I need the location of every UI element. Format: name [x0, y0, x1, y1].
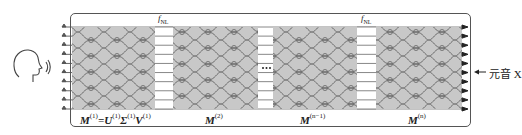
- mesh-block-3: [273, 27, 357, 109]
- speaking-head-icon: [14, 50, 50, 82]
- block-label-m1: M(1)=U(1)Σ(1)V(1): [80, 112, 151, 126]
- output-label: 元音 X: [489, 65, 522, 81]
- block-label-mn: M(n): [408, 112, 426, 126]
- input-arrows: [62, 24, 72, 109]
- nonlinear-function-label-2: fNL: [361, 13, 372, 25]
- block-label-mn-1: M(n−1): [300, 112, 325, 126]
- mesh-block-4: [376, 27, 462, 109]
- output-arrow-icon: [474, 70, 486, 75]
- nonlinear-function-label-1: fNL: [158, 13, 169, 25]
- ellipsis-dots: [262, 67, 271, 69]
- output-arrows: [462, 25, 468, 111]
- nonlinear-layer-1: [155, 27, 173, 109]
- nonlinear-layer-2: [357, 27, 376, 109]
- block-label-m2: M(2): [205, 112, 223, 126]
- mesh-block-2: [173, 27, 258, 109]
- mesh-diagram: [0, 0, 522, 135]
- mesh-block-1: [72, 27, 155, 109]
